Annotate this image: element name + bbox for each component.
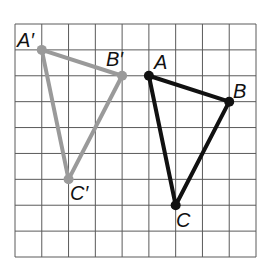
label-c-prime: C′ (70, 182, 89, 204)
label-b-prime: B′ (106, 48, 124, 70)
grid (15, 24, 256, 257)
vertex-point-a-prime (37, 45, 47, 55)
label-c: C (176, 209, 191, 231)
vertex-point-a (144, 71, 154, 81)
triangle-original-abc (149, 76, 229, 205)
vertex-point-b-prime (117, 71, 127, 81)
translation-diagram: A′ B′ C′ A B C (0, 0, 259, 268)
label-a-prime: A′ (16, 29, 35, 51)
label-b: B (233, 80, 246, 102)
label-a: A (153, 51, 167, 73)
